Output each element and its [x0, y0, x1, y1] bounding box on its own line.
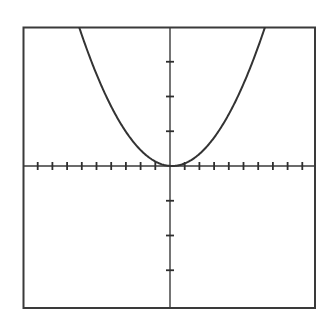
parabola-curve: [64, 0, 279, 166]
graph-plot: [0, 0, 336, 326]
